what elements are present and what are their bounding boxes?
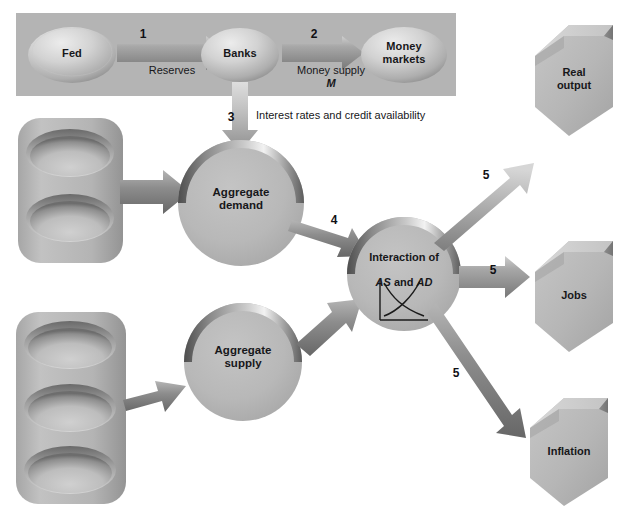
step-number-2: 2 [307,27,321,41]
node-jobs [535,241,613,352]
step-number-5-inflation: 5 [449,366,463,380]
stack-disc [24,321,116,369]
node-aggregate-demand [178,140,304,266]
step-number-3: 3 [224,110,238,124]
demand-inputs-stack [18,118,123,263]
stack-disc [26,194,114,242]
monetary-policy-diagram: Fed Banks Money markets 1 2 3 4 5 5 5 Re… [0,0,629,508]
node-aggregate-supply [184,303,302,421]
arrow-label-reserves: Reserves [122,64,222,78]
arrow-label-interest-rates: Interest rates and credit availability [256,109,516,123]
step-number-5-jobs: 5 [486,263,500,277]
stack-disc [24,446,116,494]
stack-disc [24,384,116,432]
step-number-4: 4 [327,213,341,227]
arrow-interaction-to-inflation [427,303,526,438]
node-inflation [530,398,608,506]
stack-disc [26,129,114,177]
supply-inputs-stack [16,312,126,504]
arrow-label-money-supply-symbol: M [276,77,386,91]
arrow-supply-inputs-to-aggregate-supply [123,381,186,412]
step-number-5-real-output: 5 [479,168,493,182]
node-fed [28,27,116,83]
arrow-label-money-supply: Money supply [276,64,386,78]
step-number-1: 1 [136,27,150,41]
node-interaction [347,217,461,331]
node-real-output [535,25,613,136]
arrow-aggregate-supply-to-interaction [296,299,362,356]
